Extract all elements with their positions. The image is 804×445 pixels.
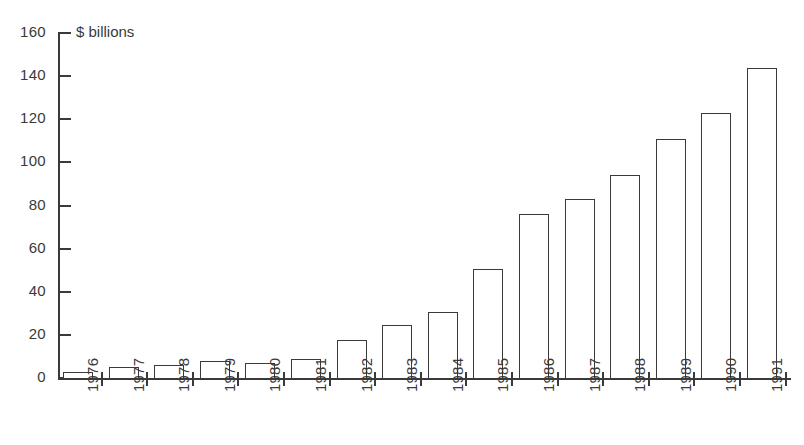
- y-axis-tick-label: 20: [6, 326, 46, 341]
- y-axis-tick: [58, 248, 71, 250]
- x-axis-label: 1978: [176, 358, 191, 392]
- y-axis-tick: [58, 32, 71, 34]
- bar: [656, 139, 686, 378]
- y-axis-tick-label: 100: [6, 153, 46, 168]
- x-axis-label: 1987: [587, 358, 602, 392]
- x-axis-tick: [420, 372, 422, 386]
- bar-chart: $ billions 020406080100120140160 1976197…: [0, 0, 804, 445]
- y-axis-tick: [58, 161, 71, 163]
- y-axis-tick-label: 60: [6, 240, 46, 255]
- y-axis-tick-label-wrap: 20: [0, 334, 58, 336]
- y-axis-tick-label-wrap: 40: [0, 291, 58, 293]
- y-axis-tick-label: 0: [6, 369, 46, 384]
- x-axis-tick: [648, 372, 650, 386]
- x-axis-label: 1985: [495, 358, 510, 392]
- x-axis-label: 1991: [769, 358, 784, 392]
- x-axis-label: 1980: [267, 358, 282, 392]
- y-axis-tick-label: 120: [6, 110, 46, 125]
- y-axis-tick-label-wrap: 80: [0, 205, 58, 207]
- y-axis-tick: [58, 291, 71, 293]
- x-axis-label: 1979: [222, 358, 237, 392]
- y-axis-tick-label-wrap: 140: [0, 75, 58, 77]
- x-axis-tick: [283, 372, 285, 386]
- y-axis-tick-label-wrap: 160: [0, 32, 58, 34]
- y-axis-tick-label: 40: [6, 283, 46, 298]
- x-axis-label: 1981: [313, 358, 328, 392]
- x-axis-tick: [192, 372, 194, 386]
- y-axis-tick-label: 80: [6, 197, 46, 212]
- bar: [610, 175, 640, 378]
- bar: [565, 199, 595, 378]
- x-axis-label: 1984: [450, 358, 465, 392]
- y-axis-tick: [58, 205, 71, 207]
- x-axis-tick: [739, 372, 741, 386]
- x-axis-label: 1977: [131, 358, 146, 392]
- y-axis-tick-label: 140: [6, 67, 46, 82]
- bar: [701, 113, 731, 378]
- x-axis-label: 1983: [404, 358, 419, 392]
- bar: [519, 214, 549, 378]
- y-axis-tick: [58, 75, 71, 77]
- y-axis-tick-label: 160: [6, 24, 46, 39]
- x-axis-tick: [511, 372, 513, 386]
- y-axis-tick-label-wrap: 0: [0, 377, 58, 379]
- x-axis-label: 1990: [723, 358, 738, 392]
- y-axis-tick-label-wrap: 120: [0, 118, 58, 120]
- y-axis-tick-label-wrap: 60: [0, 248, 58, 250]
- x-axis-label: 1982: [359, 358, 374, 392]
- x-axis-label: 1988: [632, 358, 647, 392]
- axis-unit-label: $ billions: [76, 24, 134, 40]
- bar: [747, 68, 777, 379]
- x-axis-label: 1989: [678, 358, 693, 392]
- x-axis-label: 1986: [541, 358, 556, 392]
- y-axis-tick-label-wrap: 100: [0, 161, 58, 163]
- y-axis-tick: [58, 118, 71, 120]
- x-axis-label: 1976: [85, 358, 100, 392]
- y-axis-tick: [58, 334, 71, 336]
